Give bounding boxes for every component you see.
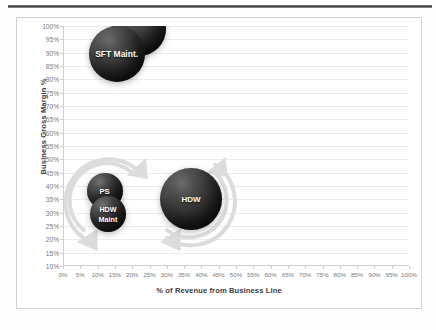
y-tick-label: 10% bbox=[46, 263, 59, 270]
y-tick-mark bbox=[60, 199, 63, 200]
x-tick-label: 15% bbox=[109, 271, 121, 278]
x-tick-mark bbox=[219, 266, 220, 269]
x-tick-label: 55% bbox=[247, 271, 259, 278]
gridline bbox=[63, 173, 409, 174]
y-tick-label: 90% bbox=[46, 49, 59, 56]
y-tick-label: 75% bbox=[46, 89, 59, 96]
x-tick-mark bbox=[80, 266, 81, 269]
y-tick-label: 65% bbox=[46, 116, 59, 123]
x-tick-label: 10% bbox=[91, 271, 103, 278]
x-tick-label: 25% bbox=[143, 271, 155, 278]
bubble-label: PS bbox=[99, 187, 109, 196]
bubble-label: SFT Maint. bbox=[95, 49, 138, 59]
x-tick-label: 100% bbox=[401, 271, 417, 278]
y-tick-mark bbox=[60, 39, 63, 40]
x-tick-label: 5% bbox=[76, 271, 85, 278]
bubble-chart-frame: Business Gross Margin % % of Revenue fro… bbox=[16, 17, 422, 309]
y-tick-label: 35% bbox=[46, 196, 59, 203]
x-tick-label: 65% bbox=[282, 271, 294, 278]
x-tick-label: 70% bbox=[299, 271, 311, 278]
x-tick-label: 30% bbox=[161, 271, 173, 278]
y-tick-label: 100% bbox=[42, 23, 59, 30]
screenshot-root: Business Gross Margin % % of Revenue fro… bbox=[0, 0, 436, 330]
x-tick-mark bbox=[340, 266, 341, 269]
gridline bbox=[63, 253, 409, 254]
y-tick-label: 70% bbox=[46, 103, 59, 110]
gridline bbox=[63, 119, 409, 120]
y-tick-mark bbox=[60, 106, 63, 107]
y-tick-mark bbox=[60, 133, 63, 134]
bubble-label: HDW bbox=[99, 205, 116, 214]
y-tick-mark bbox=[60, 213, 63, 214]
y-tick-mark bbox=[60, 93, 63, 94]
x-tick-mark bbox=[253, 266, 254, 269]
y-tick-label: 55% bbox=[46, 143, 59, 150]
x-axis-title: % of Revenue from Business Line bbox=[17, 286, 421, 295]
plot-clip: SFTSFT Maint.PSHDWMaintHDW bbox=[63, 26, 409, 266]
bubble-label: HDW bbox=[181, 195, 200, 204]
y-tick-mark bbox=[60, 66, 63, 67]
y-tick-label: 15% bbox=[46, 249, 59, 256]
x-tick-label: 80% bbox=[334, 271, 346, 278]
x-tick-label: 75% bbox=[316, 271, 328, 278]
x-tick-mark bbox=[63, 266, 64, 269]
y-tick-label: 80% bbox=[46, 76, 59, 83]
x-tick-mark bbox=[392, 266, 393, 269]
y-tick-mark bbox=[60, 253, 63, 254]
y-tick-label: 25% bbox=[46, 223, 59, 230]
gridline bbox=[63, 239, 409, 240]
x-tick-mark bbox=[150, 266, 151, 269]
y-tick-mark bbox=[60, 26, 63, 27]
y-tick-label: 60% bbox=[46, 129, 59, 136]
x-tick-mark bbox=[236, 266, 237, 269]
y-tick-label: 85% bbox=[46, 63, 59, 70]
y-tick-label: 50% bbox=[46, 156, 59, 163]
x-tick-mark bbox=[323, 266, 324, 269]
plot-area: SFTSFT Maint.PSHDWMaintHDW 100%95%90%85%… bbox=[63, 26, 409, 266]
gridline bbox=[63, 146, 409, 147]
x-tick-mark bbox=[115, 266, 116, 269]
x-tick-label: 85% bbox=[351, 271, 363, 278]
x-tick-mark bbox=[357, 266, 358, 269]
x-tick-mark bbox=[98, 266, 99, 269]
x-tick-label: 20% bbox=[126, 271, 138, 278]
gridline bbox=[63, 159, 409, 160]
x-tick-label: 35% bbox=[178, 271, 190, 278]
y-tick-mark bbox=[60, 79, 63, 80]
x-tick-label: 95% bbox=[385, 271, 397, 278]
x-tick-mark bbox=[167, 266, 168, 269]
y-tick-label: 30% bbox=[46, 209, 59, 216]
y-tick-label: 40% bbox=[46, 183, 59, 190]
y-tick-mark bbox=[60, 53, 63, 54]
x-tick-mark bbox=[132, 266, 133, 269]
y-tick-mark bbox=[60, 173, 63, 174]
x-tick-mark bbox=[184, 266, 185, 269]
y-tick-mark bbox=[60, 119, 63, 120]
x-tick-label: 50% bbox=[230, 271, 242, 278]
x-tick-label: 60% bbox=[264, 271, 276, 278]
y-axis-line bbox=[63, 26, 64, 266]
x-tick-mark bbox=[409, 266, 410, 269]
bubble-label: Maint bbox=[99, 215, 118, 224]
x-tick-label: 0% bbox=[59, 271, 68, 278]
y-tick-mark bbox=[60, 226, 63, 227]
x-tick-label: 90% bbox=[368, 271, 380, 278]
gridline bbox=[63, 133, 409, 134]
y-tick-mark bbox=[60, 159, 63, 160]
y-tick-label: 20% bbox=[46, 236, 59, 243]
x-tick-mark bbox=[271, 266, 272, 269]
gridline bbox=[63, 93, 409, 94]
y-tick-mark bbox=[60, 186, 63, 187]
y-tick-mark bbox=[60, 146, 63, 147]
x-tick-mark bbox=[305, 266, 306, 269]
page-top-rule bbox=[8, 5, 432, 8]
gridline bbox=[63, 106, 409, 107]
y-tick-mark bbox=[60, 239, 63, 240]
x-tick-label: 45% bbox=[212, 271, 224, 278]
y-tick-label: 95% bbox=[46, 36, 59, 43]
y-tick-label: 45% bbox=[46, 169, 59, 176]
x-tick-mark bbox=[374, 266, 375, 269]
x-tick-mark bbox=[288, 266, 289, 269]
x-tick-label: 40% bbox=[195, 271, 207, 278]
x-tick-mark bbox=[201, 266, 202, 269]
